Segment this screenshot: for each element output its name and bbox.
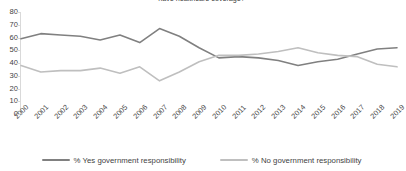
y-axis-tick-60: 60 <box>0 34 18 42</box>
y-axis-tick-mark-20 <box>17 89 20 90</box>
chart-legend: % Yes government responsibility% No gove… <box>0 152 403 168</box>
y-axis-tick-mark-50 <box>17 50 20 51</box>
y-axis-tick-mark-10 <box>17 101 20 102</box>
y-axis-tick-labels: 80706050403020100 <box>0 12 18 114</box>
legend-item-no[interactable]: % No government responsibility <box>220 156 362 165</box>
y-axis-tick-10: 10 <box>0 97 18 105</box>
y-axis-tick-80: 80 <box>0 8 18 16</box>
y-axis-tick-mark-0 <box>17 114 20 115</box>
legend-label: % Yes government responsibility <box>74 156 186 165</box>
y-axis-tick-40: 40 <box>0 59 18 67</box>
plot-area <box>21 12 397 114</box>
legend-swatch-icon-yes <box>42 159 70 161</box>
y-axis-tick-mark-60 <box>17 38 20 39</box>
series-line-yes <box>21 29 397 66</box>
x-axis-tick-labels: 2000200120022003200420052006200720082009… <box>21 115 397 149</box>
y-axis-tick-mark-30 <box>17 76 20 77</box>
y-axis-tick-70: 70 <box>0 21 18 29</box>
y-axis-tick-mark-70 <box>17 25 20 26</box>
legend-swatch-icon-no <box>220 159 248 161</box>
y-axis-tick-50: 50 <box>0 46 18 54</box>
y-axis-tick-mark-40 <box>17 63 20 64</box>
y-axis-tick-mark-80 <box>17 12 20 13</box>
y-axis-tick-30: 30 <box>0 72 18 80</box>
legend-item-yes[interactable]: % Yes government responsibility <box>42 156 186 165</box>
y-axis-tick-20: 20 <box>0 85 18 93</box>
legend-label: % No government responsibility <box>252 156 362 165</box>
series-lines <box>21 12 397 114</box>
chart-title: have healthcare coverage? <box>0 0 403 3</box>
